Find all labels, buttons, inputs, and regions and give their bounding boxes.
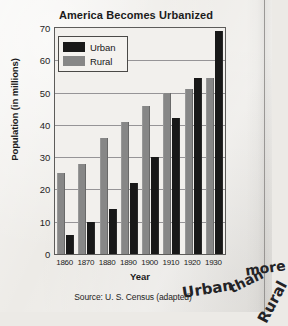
legend-label-rural: Rural xyxy=(90,56,112,67)
bar-rural xyxy=(57,173,65,254)
bar-urban xyxy=(87,222,95,254)
legend-swatch-rural xyxy=(63,56,85,66)
bar-rural xyxy=(163,93,171,254)
bar-urban xyxy=(151,157,159,254)
bar-urban xyxy=(215,31,223,254)
y-tick-label: 0 xyxy=(4,249,50,260)
y-axis-tick-labels: 010203040506070 xyxy=(0,27,50,255)
legend-item-urban: Urban xyxy=(63,40,123,54)
bar-urban xyxy=(109,209,117,254)
source-caption: Source: U. S. Census (adapted) xyxy=(0,292,266,302)
bar-rural xyxy=(185,89,193,254)
bar-rural xyxy=(100,138,108,254)
legend-label-urban: Urban xyxy=(90,42,115,53)
bar-rural xyxy=(121,122,129,254)
bar-rural xyxy=(78,164,86,254)
legend-item-rural: Rural xyxy=(63,54,123,68)
bar-urban xyxy=(66,235,74,254)
chart-legend: Urban Rural xyxy=(58,36,128,72)
x-tick-label: 1930 xyxy=(198,258,228,267)
bar-urban xyxy=(130,183,138,254)
y-axis-title: Population (in millions) xyxy=(9,30,20,190)
y-tick-label: 10 xyxy=(4,216,50,227)
bar-urban xyxy=(194,78,202,254)
bar-rural xyxy=(142,106,150,255)
legend-swatch-urban xyxy=(63,42,85,52)
bar-urban xyxy=(172,118,180,254)
chart-title: America Becomes Urbanized xyxy=(0,9,272,21)
handwriting-word-more: more xyxy=(244,257,286,278)
bar-rural xyxy=(206,78,214,254)
x-axis-tick-labels: 18601870188018901900191019201930 xyxy=(54,258,226,270)
x-axis-title: Year xyxy=(54,271,226,282)
